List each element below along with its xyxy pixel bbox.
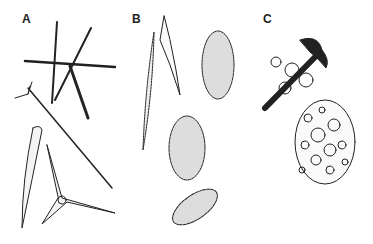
- perforated-plate-sclerite: [295, 100, 355, 184]
- hexactine-spicule: [25, 22, 115, 118]
- tuberculate-club-1: [202, 31, 234, 99]
- tapered-tylote-spicule: [22, 126, 42, 228]
- tuberculate-club-2: [169, 116, 205, 180]
- spicule-illustration: [0, 0, 373, 244]
- anchor-sclerite: [265, 38, 327, 108]
- warty-spindle-sclerite: [143, 32, 154, 150]
- tuberculate-rod: [167, 182, 223, 231]
- triradiate-spicule: [42, 145, 115, 224]
- spiny-rod-sclerite: [160, 16, 180, 95]
